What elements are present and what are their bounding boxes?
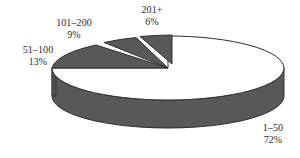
pie-chart-figure: 201+ 6% 101–200 9% 51–100 13% 1–50 72% bbox=[0, 0, 300, 158]
slice-label-101-200-name: 101–200 bbox=[28, 17, 120, 29]
pie-top-faces bbox=[52, 35, 284, 100]
slice-label-51-100-name: 51–100 bbox=[0, 44, 78, 56]
slice-label-101-200: 101–200 9% bbox=[28, 17, 120, 40]
slice-label-201-plus: 201+ 6% bbox=[112, 4, 192, 27]
slice-label-1-50-name: 1–50 bbox=[246, 122, 300, 134]
slice-label-1-50: 1–50 72% bbox=[246, 122, 300, 145]
slice-label-51-100-value: 13% bbox=[0, 56, 78, 68]
slice-label-201-plus-name: 201+ bbox=[112, 4, 192, 16]
slice-label-1-50-value: 72% bbox=[246, 134, 300, 146]
slice-label-201-plus-value: 6% bbox=[112, 16, 192, 28]
slice-label-101-200-value: 9% bbox=[28, 29, 120, 41]
slice-label-51-100: 51–100 13% bbox=[0, 44, 78, 67]
